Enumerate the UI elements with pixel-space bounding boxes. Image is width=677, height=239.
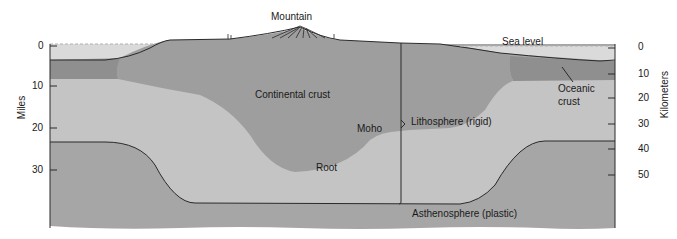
left-tick-30: 30: [32, 165, 43, 175]
mountain-label: Mountain: [271, 12, 312, 22]
right-tick-40: 40: [638, 144, 649, 154]
moho-label: Moho: [357, 124, 382, 134]
oceanic-crust-left: [50, 59, 120, 79]
continental-crust-label: Continental crust: [255, 90, 330, 100]
left-tick-20: 20: [32, 123, 43, 133]
left-tick-0: 0: [38, 41, 44, 51]
right-tick-50: 50: [638, 170, 649, 180]
right-tick-20: 20: [638, 93, 649, 103]
right-tick-10: 10: [638, 69, 649, 79]
sea-level-label: Sea level: [502, 37, 543, 47]
left-axis-title: Miles: [16, 96, 27, 119]
oceanic-crust-label-line2: crust: [558, 97, 580, 107]
cross-section-diagram: [0, 0, 677, 239]
right-tick-0: 0: [638, 42, 644, 52]
asthenosphere-label: Asthenosphere (plastic): [412, 209, 517, 219]
right-axis-title: Kilometers: [659, 71, 670, 118]
right-tick-30: 30: [638, 119, 649, 129]
left-tick-10: 10: [32, 81, 43, 91]
lithosphere-label: Lithosphere (rigid): [411, 117, 492, 127]
root-label: Root: [316, 163, 337, 173]
oceanic-crust-label-line1: Oceanic: [558, 84, 595, 94]
